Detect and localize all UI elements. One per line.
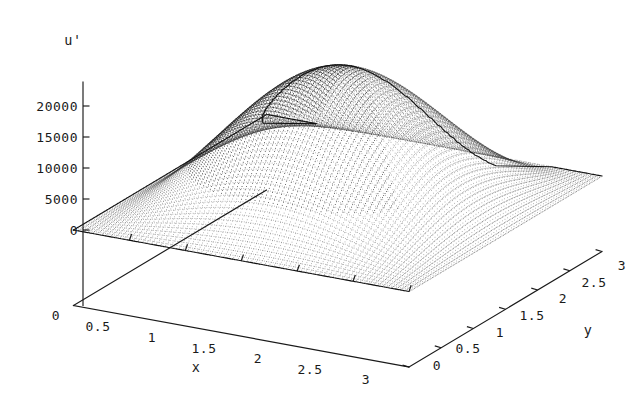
z-tick-label: 5000 [45,192,78,207]
x-tick-label: 2 [254,351,262,366]
y-tick-mark [467,327,473,329]
y-tick-label: 1 [496,325,504,340]
y-tick-mark [563,269,569,271]
x-tick-mark [353,275,355,281]
x-axis-title: x [192,359,201,375]
z-tick-label: 10000 [36,161,78,176]
z-tick-label: 15000 [36,130,78,145]
x-tick-mark [297,265,299,271]
surface-crest-edge [262,65,602,176]
y-tick-label: 0.5 [456,341,481,356]
y-tick-label: 3 [618,258,626,273]
y-tick-label: 1.5 [520,308,545,323]
x-tick-label: 2.5 [298,362,323,377]
x-origin-label: 0 [52,308,60,323]
y-tick-label: 2.5 [582,275,607,290]
x-axis-line [74,306,410,368]
plot-canvas: u'2000015000100005000000.511.522.53x00.5… [0,0,643,398]
x-tick-label: 0.5 [86,319,111,334]
y-tick-mark [596,250,602,252]
x-tick-label: 1.5 [192,341,217,356]
surface-boundary-edge [74,115,267,231]
y-tick-mark [499,307,505,309]
x-tick-label: 3 [362,372,370,387]
y-tick-label: 2 [559,291,567,306]
x-tick-mark [129,234,131,240]
y-axis-title: y [584,322,593,338]
x-tick-mark [241,255,243,261]
floor-back-left-edge [74,190,267,306]
z-axis-title: u' [64,32,81,48]
x-tick-label: 1 [148,330,156,345]
surface-plot-figure: u'2000015000100005000000.511.522.53x00.5… [0,0,643,398]
z-tick-label: 0 [70,223,78,238]
y-tick-mark [435,346,441,348]
y-tick-mark [531,288,537,290]
y-tick-label: 0 [433,358,441,373]
z-tick-label: 20000 [36,99,78,114]
